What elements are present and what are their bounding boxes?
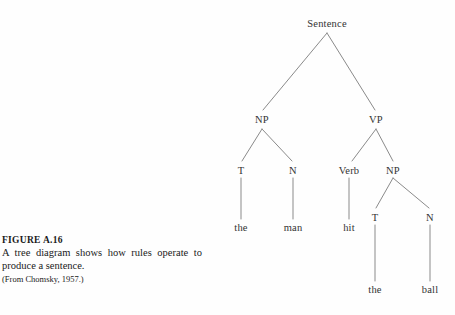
tree-node-verb: Verb [339, 165, 360, 176]
figure-page: Sentence NP VP T N Verb NP T N the man h… [0, 0, 455, 315]
tree-node-t-subject: T [238, 165, 245, 176]
tree-leaf-ball: ball [422, 284, 439, 295]
edge-sentence-vp [327, 33, 375, 110]
edge-vp-np2 [376, 129, 393, 161]
tree-leaf-hit: hit [343, 222, 355, 233]
tree-node-n-subject: N [289, 165, 297, 176]
tree-leaf-the-subject: the [234, 222, 247, 233]
tree-node-t-object: T [372, 212, 379, 223]
edge-np2-t2 [376, 178, 393, 208]
figure-source-credit: (From Chomsky, 1957.) [2, 273, 207, 285]
edge-np-t [242, 129, 262, 161]
edge-sentence-np [263, 33, 327, 110]
tree-leaf-man: man [284, 222, 303, 233]
tree-node-sentence: Sentence [307, 18, 347, 29]
figure-caption-text: A tree diagram shows how rules operate t… [2, 246, 202, 272]
tree-node-n-object: N [426, 212, 434, 223]
figure-number-label: FIGURE A.16 [2, 234, 207, 246]
tree-node-np-subject: NP [255, 114, 269, 125]
edge-vp-verb [352, 129, 376, 161]
tree-node-vp: VP [369, 114, 383, 125]
edge-np-n [262, 129, 292, 161]
tree-leaf-the-object: the [368, 284, 381, 295]
edge-np2-n2 [393, 178, 429, 208]
tree-node-np-object: NP [386, 165, 400, 176]
figure-caption: FIGURE A.16 A tree diagram shows how rul… [2, 234, 207, 285]
